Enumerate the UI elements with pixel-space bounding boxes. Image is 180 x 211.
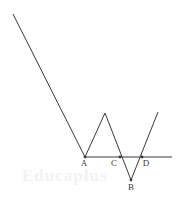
figure-canvas: Educaplus ACDB	[0, 0, 180, 211]
point-label-d: D	[143, 158, 150, 168]
zigzag-polyline	[13, 14, 158, 180]
point-label-a: A	[81, 158, 88, 168]
point-marker-b	[130, 179, 133, 182]
point-marker-c	[119, 156, 122, 159]
point-labels-group: ACDB	[81, 158, 150, 192]
geometry-figure: ACDB	[0, 0, 180, 211]
point-label-b: B	[128, 182, 134, 192]
point-label-c: C	[111, 158, 117, 168]
